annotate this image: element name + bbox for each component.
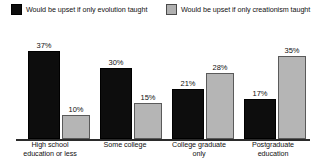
bar-group-college-graduate: 21% 28% — [164, 17, 234, 139]
bar-value-label: 17% — [252, 89, 267, 98]
legend-label-creationism: Would be upset if only creationism taugh… — [181, 5, 310, 14]
x-tick-line-2: only — [160, 150, 238, 159]
bar-rect — [278, 56, 306, 139]
legend-label-evolution: Would be upset if only evolution taught — [26, 5, 147, 14]
bar-evolution-high-school: 37% — [28, 41, 60, 139]
legend-item-evolution: Would be upset if only evolution taught — [11, 2, 147, 16]
x-tick-label-high-school: High school education or less — [10, 141, 90, 158]
x-tick-label-some-college: Some college — [86, 141, 164, 150]
bar-value-label: 35% — [284, 46, 299, 55]
bar-evolution-some-college: 30% — [100, 58, 132, 139]
bar-chart: Would be upset if only evolution taught … — [0, 0, 323, 168]
bar-group-some-college: 30% 15% — [90, 17, 160, 139]
bar-creationism-college-graduate: 28% — [206, 63, 234, 140]
bar-rect — [244, 99, 276, 139]
bar-evolution-postgraduate: 17% — [244, 89, 276, 139]
light-square-swatch-icon — [166, 4, 177, 15]
bar-value-label: 30% — [108, 58, 123, 67]
x-tick-line-2: education — [234, 150, 312, 159]
bar-rect — [134, 103, 162, 139]
bar-rect — [62, 115, 90, 139]
legend-item-creationism: Would be upset if only creationism taugh… — [166, 2, 310, 16]
bar-value-label: 10% — [68, 105, 83, 114]
bar-evolution-college-graduate: 21% — [172, 79, 204, 139]
bar-rect — [28, 51, 60, 139]
bar-creationism-postgraduate: 35% — [278, 46, 306, 139]
bar-creationism-some-college: 15% — [134, 93, 162, 139]
dark-square-swatch-icon — [11, 4, 22, 15]
plot-area: 37% 10% 30% 15% 21% — [0, 16, 323, 140]
bar-creationism-high-school: 10% — [62, 105, 90, 139]
bar-rect — [100, 68, 132, 139]
x-axis-labels: High school education or less Some colle… — [0, 141, 323, 168]
x-tick-label-college-graduate: College graduate only — [160, 141, 238, 158]
bar-rect — [206, 73, 234, 140]
x-tick-line-2: education or less — [10, 150, 90, 159]
chart-legend: Would be upset if only evolution taught … — [0, 2, 323, 16]
bar-group-high-school: 37% 10% — [16, 17, 86, 139]
x-tick-line-1: Some college — [86, 141, 164, 150]
bar-group-postgraduate: 17% 35% — [238, 17, 310, 139]
bar-value-label: 28% — [212, 63, 227, 72]
x-tick-label-postgraduate: Postgraduate education — [234, 141, 312, 158]
bar-value-label: 21% — [180, 79, 195, 88]
bar-value-label: 37% — [36, 41, 51, 50]
bar-value-label: 15% — [140, 93, 155, 102]
bar-rect — [172, 89, 204, 139]
